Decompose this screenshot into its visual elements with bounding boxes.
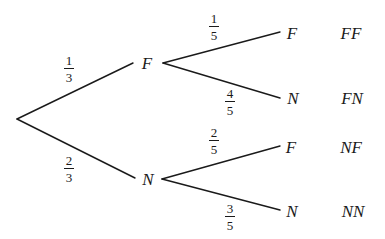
outcome-FN: FN [341, 90, 363, 107]
probability-root-N: 2 3 [64, 154, 74, 184]
numerator: 3 [227, 202, 234, 216]
probability-N-N: 3 5 [225, 202, 235, 232]
leaf-N-N: N [286, 203, 297, 220]
tree-branches [0, 0, 385, 239]
denominator: 5 [211, 27, 218, 42]
node-N: N [142, 171, 153, 188]
probability-root-F: 1 3 [64, 54, 74, 84]
numerator: 2 [66, 154, 73, 168]
denominator: 3 [66, 169, 73, 184]
branch-N-to-N [162, 179, 280, 210]
branch-F-to-N [163, 63, 280, 98]
denominator: 5 [227, 217, 234, 232]
branch-N-to-F [162, 146, 280, 179]
node-F: F [142, 55, 152, 72]
branch-root-to-N [17, 119, 135, 178]
numerator: 4 [227, 87, 234, 101]
outcome-NN: NN [342, 203, 365, 220]
leaf-F-N: N [287, 90, 298, 107]
denominator: 3 [66, 69, 73, 84]
outcome-NF: NF [340, 139, 362, 156]
branch-F-to-F [163, 32, 280, 63]
denominator: 5 [211, 141, 218, 156]
numerator: 1 [66, 54, 73, 68]
numerator: 1 [211, 12, 218, 26]
probability-F-N: 4 5 [225, 87, 235, 117]
probability-tree-diagram: 1 3 2 3 F N 1 5 4 5 2 5 3 5 F N F N FF F… [0, 0, 385, 239]
leaf-F-F: F [287, 25, 297, 42]
denominator: 5 [227, 102, 234, 117]
numerator: 2 [211, 126, 218, 140]
outcome-FF: FF [341, 25, 362, 42]
probability-N-F: 2 5 [209, 126, 219, 156]
leaf-N-F: F [286, 139, 296, 156]
probability-F-F: 1 5 [209, 12, 219, 42]
branch-root-to-F [17, 63, 133, 119]
